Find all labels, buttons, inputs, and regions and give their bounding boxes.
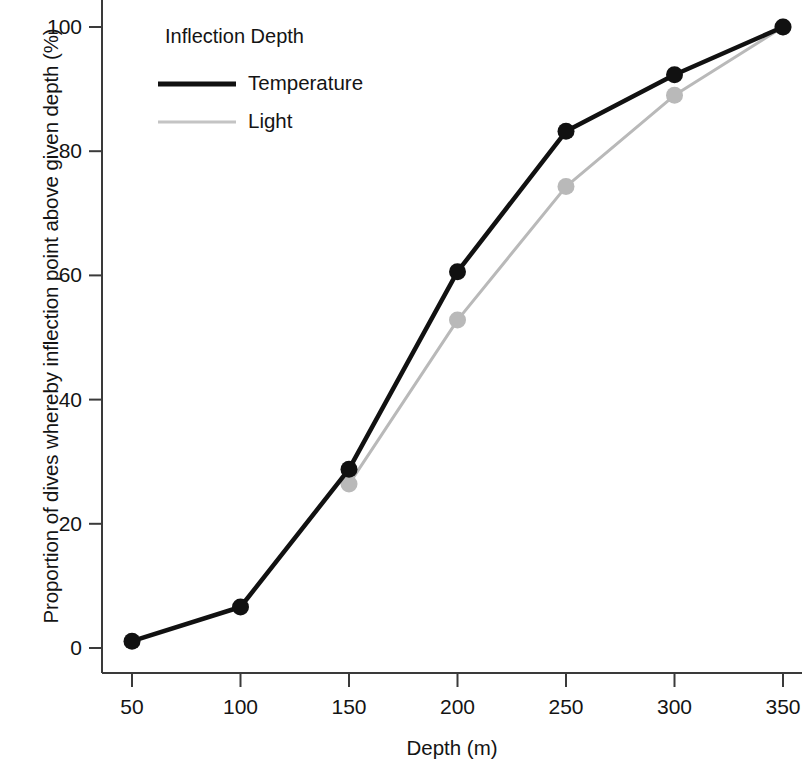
data-point	[341, 461, 358, 478]
data-point	[775, 19, 792, 36]
series-temperature	[124, 19, 792, 650]
series-light	[341, 19, 792, 493]
data-point	[124, 633, 141, 650]
data-series-layer	[124, 19, 792, 650]
y-tick-label: 60	[30, 263, 82, 287]
data-point	[232, 599, 249, 616]
y-tick-label: 100	[30, 15, 82, 39]
chart-figure: Proportion of dives whereby inflection p…	[0, 0, 802, 773]
legend-label-light: Light	[248, 109, 292, 133]
y-tick-label: 40	[30, 388, 82, 412]
x-tick-label: 100	[223, 695, 258, 719]
y-tick-label: 0	[30, 636, 82, 660]
data-point	[449, 312, 466, 329]
data-point	[666, 66, 683, 83]
x-tick-label: 350	[765, 695, 800, 719]
plot-canvas	[0, 0, 802, 773]
x-tick-label: 250	[548, 695, 583, 719]
legend-title: Inflection Depth	[165, 25, 304, 48]
data-point	[666, 87, 683, 104]
data-point	[558, 178, 575, 195]
x-tick-label: 150	[331, 695, 366, 719]
legend-label-temperature: Temperature	[248, 71, 363, 95]
x-tick-label: 50	[120, 695, 143, 719]
y-tick-label: 20	[30, 512, 82, 536]
y-axis-title: Proportion of dives whereby inflection p…	[34, 0, 68, 676]
x-axis-title: Depth (m)	[102, 736, 802, 760]
data-point	[449, 263, 466, 280]
legend-swatches	[158, 84, 236, 122]
x-tick-label: 200	[440, 695, 475, 719]
axis-lines	[89, 0, 802, 687]
y-tick-label: 80	[30, 139, 82, 163]
x-tick-label: 300	[657, 695, 692, 719]
data-point	[558, 123, 575, 140]
